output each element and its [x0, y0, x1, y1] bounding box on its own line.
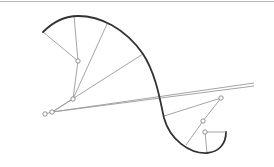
joint-circle-icon	[201, 119, 205, 123]
linkage-diagram	[0, 0, 274, 167]
diagram-canvas	[0, 0, 274, 167]
construction-line	[52, 54, 143, 112]
construction-line	[52, 86, 254, 112]
joint-circle-icon	[71, 97, 75, 101]
construction-line	[74, 16, 78, 61]
joint-circle-icon	[76, 59, 80, 63]
joint-circles	[43, 59, 223, 134]
construction-line	[43, 32, 78, 61]
construction-line	[186, 121, 203, 145]
joint-circle-icon	[43, 112, 47, 116]
joint-circle-icon	[203, 130, 207, 134]
construction-line	[164, 98, 221, 116]
s-curve	[43, 16, 226, 153]
construction-line	[205, 132, 207, 153]
construction-line	[203, 98, 221, 121]
joint-circle-icon	[219, 96, 223, 100]
joint-circle-icon	[50, 110, 54, 114]
